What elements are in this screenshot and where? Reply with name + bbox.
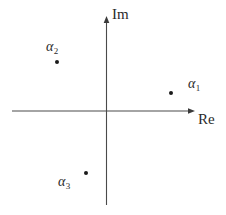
real-axis-label: Re [198, 112, 215, 127]
point-subscript-alpha-2: 2 [53, 46, 58, 56]
point-label-alpha-3: α3 [58, 175, 70, 191]
point-subscript-alpha-1: 1 [195, 83, 200, 93]
point-marker-alpha-3 [84, 171, 88, 175]
point-label-alpha-1: α1 [188, 77, 200, 93]
complex-plane-figure: Im Re α1 α2 α3 [0, 0, 226, 215]
real-axis-arrowhead [188, 108, 195, 114]
imaginary-axis-label: Im [112, 7, 129, 22]
point-subscript-alpha-3: 3 [65, 181, 70, 191]
point-marker-alpha-1 [169, 91, 173, 95]
point-marker-alpha-2 [55, 60, 59, 64]
imaginary-axis-arrowhead [104, 16, 110, 23]
axes-group [0, 0, 226, 215]
point-label-alpha-2: α2 [46, 40, 58, 56]
